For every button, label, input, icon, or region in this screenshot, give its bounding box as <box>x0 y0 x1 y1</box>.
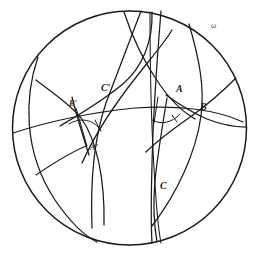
label-vertex-B: B <box>199 101 207 112</box>
label-vertex-A-prime: A′ <box>89 142 98 152</box>
figure-container: ω A B C A′ B′ C′ <box>0 0 258 258</box>
hyperbolic-disk-diagram: ω A B C A′ B′ C′ <box>0 0 258 258</box>
label-vertex-C: C <box>160 180 167 191</box>
label-vertex-B-prime: B′ <box>68 98 77 108</box>
label-vertex-A: A <box>175 83 183 94</box>
label-omega: ω <box>211 21 216 30</box>
label-vertex-C-prime: C′ <box>101 82 111 93</box>
boundary-circle-omega <box>13 11 247 245</box>
